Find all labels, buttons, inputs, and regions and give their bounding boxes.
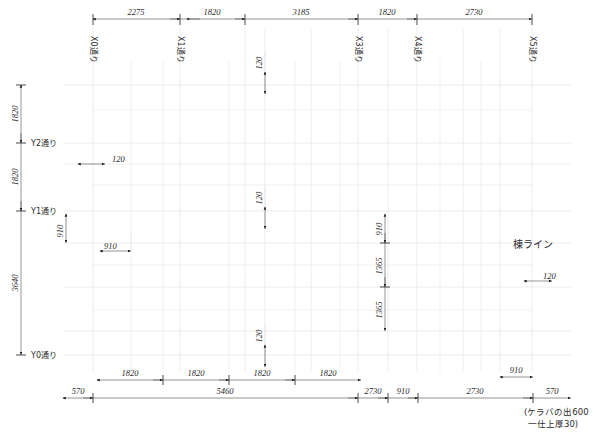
dim-bottom-outer-5: 2730 xyxy=(467,386,485,396)
bottom-note: (ケラバの出600 一仕上厚30) xyxy=(524,407,589,429)
dim-bottom-outer-6: 570 xyxy=(546,386,560,396)
left-dimension-chain: 1820 1820 3640 xyxy=(10,85,26,355)
ridge-line-label: 棟ライン xyxy=(513,238,553,250)
dim-bottom-inner-2: 1820 xyxy=(188,368,206,378)
floor-plan-svg: 2275 1820 3185 1820 2730 X0通り X1通り X3通り … xyxy=(0,0,601,437)
dim-right-1365a: 1365 xyxy=(374,258,384,275)
dim-bottom-inner-4: 1820 xyxy=(320,368,338,378)
callout-910-y1-label: 910 xyxy=(55,224,65,238)
callout-120-left: 120 xyxy=(78,154,126,164)
callout-910-left: 910 xyxy=(100,233,131,251)
dim-bottom-inner-1: 1820 xyxy=(122,368,140,378)
callout-120-left-label: 120 xyxy=(112,154,126,164)
callout-120-mid-center-label: 120 xyxy=(254,191,264,205)
grid-label-x3: X3通り xyxy=(354,36,364,63)
dim-right-910: 910 xyxy=(374,222,384,236)
dim-top-3: 3185 xyxy=(292,7,310,17)
ridge-line-annotation: 棟ライン 120 xyxy=(513,238,557,281)
dim-top-4: 1820 xyxy=(379,7,397,17)
dim-bottom-outer-3: 2730 xyxy=(365,386,383,396)
bottom-note-line1: (ケラバの出600 xyxy=(524,407,589,417)
dim-left-1: 1820 xyxy=(10,105,20,123)
dim-bottom-outer-2: 5460 xyxy=(217,386,235,396)
top-dimension-chain: 2275 1820 3185 1820 2730 xyxy=(93,7,532,25)
grid-label-x5: X5通り xyxy=(528,36,538,63)
dim-top-2: 1820 xyxy=(204,7,222,17)
dim-top-1: 2275 xyxy=(128,7,145,17)
faint-grid-lines xyxy=(63,28,571,372)
cad-drawing-canvas: 2275 1820 3185 1820 2730 X0通り X1通り X3通り … xyxy=(0,0,601,437)
grid-label-group-y: Y2通り Y1通り Y0通り xyxy=(30,138,57,360)
grid-label-x0: X0通り xyxy=(89,36,99,63)
grid-label-y1: Y1通り xyxy=(30,206,57,216)
dim-bottom-outer-4: 910 xyxy=(397,386,411,396)
dim-bottom-inner-3: 1820 xyxy=(254,368,272,378)
dim-bottom-outer-1: 570 xyxy=(72,386,86,396)
right-inner-vertical-chain: 910 1365 1365 xyxy=(374,214,390,331)
dim-bottom-inner-right-label: 910 xyxy=(510,365,524,375)
dim-left-3: 3640 xyxy=(10,274,20,293)
dim-top-5: 2730 xyxy=(466,7,484,17)
callout-120-low-center-label: 120 xyxy=(254,329,264,343)
grid-label-x1: X1通り xyxy=(176,36,186,63)
dim-right-1365b: 1365 xyxy=(374,302,384,319)
dim-left-2: 1820 xyxy=(10,168,20,186)
bottom-note-line2: 一仕上厚30) xyxy=(528,419,578,429)
grid-label-y2: Y2通り xyxy=(30,138,57,148)
grid-label-group-x: X0通り X1通り X3通り X4通り X5通り xyxy=(89,36,538,63)
callout-910-y1: 910 xyxy=(55,214,66,243)
callout-120-top-center: 120 xyxy=(254,52,265,94)
callout-120-ridge-label: 120 xyxy=(543,271,557,281)
grid-label-y0: Y0通り xyxy=(30,350,57,360)
bottom-outer-chain: 570 5460 2730 910 2730 570 xyxy=(63,386,571,403)
callout-120-top-center-label: 120 xyxy=(254,56,264,70)
callout-910-left-label: 910 xyxy=(104,241,118,251)
grid-label-x4: X4通り xyxy=(413,36,423,63)
callout-120-low-center: 120 xyxy=(254,325,265,367)
bottom-inner-right-910: 910 xyxy=(500,365,533,377)
callout-120-mid-center: 120 xyxy=(254,187,265,229)
